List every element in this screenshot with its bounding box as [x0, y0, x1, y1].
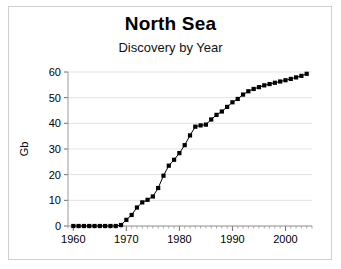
- y-tick-label: 40: [49, 117, 61, 129]
- y-tick-label: 30: [49, 143, 61, 155]
- plot-area: 0102030405060 19601970198019902000 Gb: [0, 0, 341, 269]
- y-tick-label: 50: [49, 92, 61, 104]
- y-axis-label: Gb: [18, 142, 30, 157]
- x-tick-label: 2000: [273, 233, 297, 245]
- x-tick-label: 1990: [220, 233, 244, 245]
- y-tick-label: 20: [49, 169, 61, 181]
- gridlines: [68, 72, 312, 226]
- data-series: [71, 72, 309, 228]
- y-tick-label: 10: [49, 194, 61, 206]
- y-tick-label: 60: [49, 66, 61, 78]
- x-tick-label: 1960: [61, 233, 85, 245]
- x-axis-ticks: 19601970198019902000: [61, 226, 312, 245]
- chart-figure: North Sea Discovery by Year 010203040506…: [0, 0, 341, 269]
- x-tick-label: 1980: [167, 233, 191, 245]
- y-tick-label: 0: [55, 220, 61, 232]
- y-axis-ticks: 0102030405060: [49, 66, 68, 232]
- x-tick-label: 1970: [114, 233, 138, 245]
